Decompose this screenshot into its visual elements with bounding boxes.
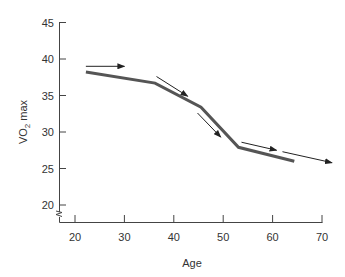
y-ticks: 202530354045 bbox=[42, 17, 66, 212]
y-tick-label: 45 bbox=[42, 17, 54, 29]
y-tick-label: 35 bbox=[42, 90, 54, 102]
y-tick-label: 25 bbox=[42, 163, 54, 175]
x-tick-label: 50 bbox=[217, 231, 229, 243]
x-tick-label: 30 bbox=[118, 231, 130, 243]
x-tick-label: 40 bbox=[168, 231, 180, 243]
y-axis-title: VO2 max bbox=[17, 99, 32, 144]
axes bbox=[56, 22, 323, 223]
x-tick-label: 70 bbox=[316, 231, 328, 243]
data-line bbox=[86, 72, 294, 161]
x-tick-label: 60 bbox=[266, 231, 278, 243]
y-tick-label: 30 bbox=[42, 126, 54, 138]
y-tick-label: 40 bbox=[42, 53, 54, 65]
x-axis-title: Age bbox=[182, 257, 202, 269]
vo2-max-age-chart: 202530354045 203040506070 Age VO2 max bbox=[0, 0, 345, 277]
axis-break-icon bbox=[56, 211, 62, 217]
y-axis-title-rest: max bbox=[17, 99, 29, 123]
y-axis-title-main: VO bbox=[17, 128, 29, 144]
x-tick-label: 20 bbox=[69, 231, 81, 243]
y-tick-label: 20 bbox=[42, 199, 54, 211]
x-ticks: 203040506070 bbox=[69, 215, 328, 243]
